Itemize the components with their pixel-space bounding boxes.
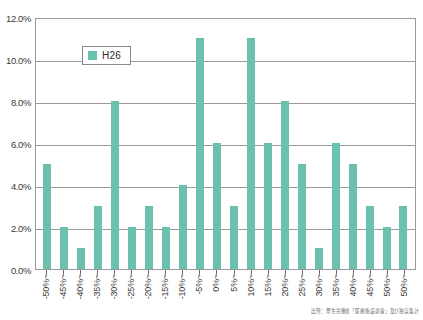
bar-slot bbox=[39, 19, 56, 269]
x-axis-tick-label: 25%~ bbox=[298, 274, 307, 296]
bar bbox=[43, 164, 51, 269]
bar bbox=[349, 164, 357, 269]
x-axis-tick-label: 10%~ bbox=[247, 274, 256, 296]
bar bbox=[179, 185, 187, 269]
bar bbox=[298, 164, 306, 269]
x-axis-tick-label: 50%~ bbox=[400, 274, 409, 296]
y-axis-tick-label: 6.0% bbox=[11, 139, 31, 150]
bar bbox=[60, 227, 68, 269]
bar bbox=[332, 143, 340, 269]
bar bbox=[264, 143, 272, 269]
bar-chart: 12.0%10.0%8.0%6.0%4.0%2.0%0.0% H26 -50%~… bbox=[0, 0, 423, 320]
bar-slot bbox=[310, 19, 327, 269]
x-axis-tick-label: -30%~ bbox=[110, 274, 119, 299]
bar-slot bbox=[209, 19, 226, 269]
bar-slot bbox=[327, 19, 344, 269]
x-axis-tick-label: -40%~ bbox=[76, 274, 85, 299]
bar-slot bbox=[242, 19, 259, 269]
bar bbox=[196, 38, 204, 269]
x-axis-tick-label: -20%~ bbox=[144, 274, 153, 299]
x-axis-tick-label: -10%~ bbox=[178, 274, 187, 299]
legend-swatch-h26 bbox=[88, 51, 97, 60]
x-axis-tick-label: -15%~ bbox=[161, 274, 170, 299]
bar bbox=[77, 248, 85, 269]
bar bbox=[94, 206, 102, 269]
bar-slot bbox=[225, 19, 242, 269]
y-axis-tick-label: 10.0% bbox=[6, 55, 31, 66]
y-axis-tick-label: 12.0% bbox=[6, 13, 31, 24]
y-axis-tick-label: 8.0% bbox=[11, 97, 31, 108]
legend: H26 bbox=[82, 46, 131, 65]
bar-slot bbox=[259, 19, 276, 269]
bar-slot bbox=[192, 19, 209, 269]
source-note: 出所：厚生労働省「医療施設調査」及び独自集計 bbox=[0, 307, 419, 314]
bar bbox=[111, 101, 119, 269]
x-axis-tick-label: 5%~ bbox=[230, 274, 239, 292]
bar-slot bbox=[141, 19, 158, 269]
bar bbox=[162, 227, 170, 269]
x-axis-tick-label: 50%~ bbox=[383, 274, 392, 296]
bar bbox=[213, 143, 221, 269]
bar bbox=[145, 206, 153, 269]
bar bbox=[230, 206, 238, 269]
bar-slot bbox=[158, 19, 175, 269]
bar-slot bbox=[56, 19, 73, 269]
x-axis-tick-label: 15%~ bbox=[264, 274, 273, 296]
legend-label-h26: H26 bbox=[102, 50, 121, 61]
bar-slot bbox=[344, 19, 361, 269]
x-axis-tick-label: -35%~ bbox=[93, 274, 102, 299]
bar bbox=[383, 227, 391, 269]
bar-slot bbox=[175, 19, 192, 269]
x-axis-tick-label: 35%~ bbox=[332, 274, 341, 296]
y-axis-tick-label: 4.0% bbox=[11, 181, 31, 192]
y-axis-tick-label: 0.0% bbox=[11, 265, 31, 276]
bar-slot bbox=[378, 19, 395, 269]
x-axis-tick-label: -45%~ bbox=[59, 274, 68, 299]
x-axis-tick-label: -50%~ bbox=[42, 274, 51, 299]
x-axis-tick-label: 30%~ bbox=[315, 274, 324, 296]
x-axis-tick-label: -5%~ bbox=[195, 274, 204, 294]
bar-slot bbox=[293, 19, 310, 269]
bar bbox=[247, 38, 255, 269]
bar-slot bbox=[395, 19, 412, 269]
bar bbox=[315, 248, 323, 269]
bar bbox=[281, 101, 289, 269]
bar-slot bbox=[276, 19, 293, 269]
bar bbox=[128, 227, 136, 269]
x-axis-tick-label: 0%~ bbox=[212, 274, 221, 292]
bar bbox=[399, 206, 407, 269]
x-axis-tick-label: 20%~ bbox=[281, 274, 290, 296]
bar bbox=[366, 206, 374, 269]
x-axis-tick-label: -25%~ bbox=[127, 274, 136, 299]
bar-slot bbox=[361, 19, 378, 269]
x-axis-tick-label: 45%~ bbox=[366, 274, 375, 296]
y-axis-tick-label: 2.0% bbox=[11, 223, 31, 234]
y-axis-labels: 12.0%10.0%8.0%6.0%4.0%2.0%0.0% bbox=[0, 18, 33, 270]
x-axis-tick-label: 40%~ bbox=[349, 274, 358, 296]
plot-area: H26 bbox=[35, 18, 416, 270]
